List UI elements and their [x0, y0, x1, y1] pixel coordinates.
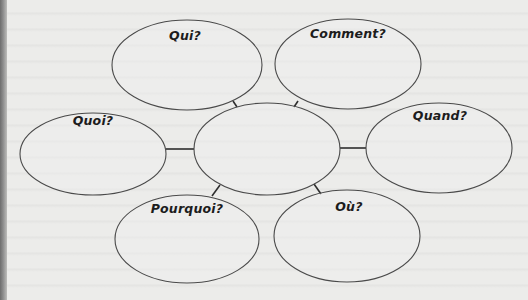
bubble-qui: Qui? — [112, 20, 262, 110]
bubble-group: Qui?Comment?Quoi?Quand?Pourquoi?Où? — [20, 19, 512, 283]
connector-ou — [314, 184, 321, 194]
bubble-quand: Quand? — [366, 103, 512, 193]
bubble-comment: Comment? — [275, 19, 421, 109]
bubble-pourquoi: Pourquoi? — [115, 195, 259, 283]
bubble-quoi: Quoi? — [20, 113, 166, 195]
bubble-label: Pourquoi? — [151, 201, 224, 216]
mind-map-diagram: Qui?Comment?Quoi?Quand?Pourquoi?Où? — [0, 0, 528, 300]
bubble-ou: Où? — [274, 190, 420, 282]
connector-qui — [233, 101, 237, 107]
connector-pourquoi — [212, 185, 220, 196]
bubble-label: Comment? — [310, 26, 386, 41]
bubble-label: Quand? — [413, 108, 467, 123]
bubble-label: Où? — [335, 199, 362, 214]
bubble-label: Qui? — [169, 28, 201, 43]
bubble-label: Quoi? — [73, 113, 114, 128]
scanned-page: Qui?Comment?Quoi?Quand?Pourquoi?Où? — [0, 0, 528, 300]
ellipse-outline — [194, 103, 340, 195]
central-bubble — [194, 103, 340, 195]
